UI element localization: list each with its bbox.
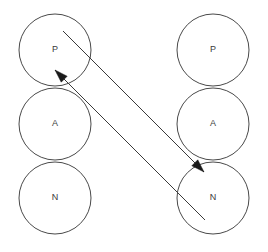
node-left-n[interactable]: N bbox=[19, 162, 91, 234]
node-label: A bbox=[210, 118, 216, 128]
node-left-a[interactable]: A bbox=[19, 88, 91, 160]
node-label: N bbox=[210, 192, 217, 202]
node-right-a[interactable]: A bbox=[177, 88, 249, 160]
node-left-p[interactable]: P bbox=[19, 14, 91, 86]
node-label: N bbox=[52, 192, 59, 202]
diagram-svg: P A N P A N bbox=[0, 0, 268, 252]
node-right-p[interactable]: P bbox=[177, 14, 249, 86]
diagram-canvas: P A N P A N bbox=[0, 0, 268, 252]
node-label: P bbox=[52, 44, 58, 54]
node-label: A bbox=[52, 118, 58, 128]
node-label: P bbox=[210, 44, 216, 54]
left-column-group: P A N bbox=[19, 14, 91, 234]
node-right-n[interactable]: N bbox=[177, 162, 249, 234]
right-column-group: P A N bbox=[177, 14, 249, 234]
